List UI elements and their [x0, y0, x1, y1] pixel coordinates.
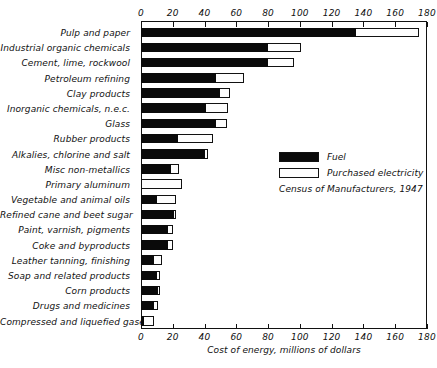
- bar-segment-fuel: [141, 119, 216, 129]
- category-label: Vegetable and animal oils: [0, 193, 136, 208]
- category-label: Misc non-metallics: [0, 163, 136, 178]
- bar-row: [141, 26, 427, 41]
- bar-segment-fuel: [141, 316, 144, 326]
- bar-row: [141, 208, 427, 223]
- bar-row: [141, 269, 427, 284]
- category-label: Corn products: [0, 284, 136, 299]
- x-tick-label-top: 100: [291, 8, 309, 18]
- x-tick-label-bottom: 80: [262, 332, 274, 342]
- x-tick-label-bottom: 40: [199, 332, 211, 342]
- category-label: Alkalies, chlorine and salt: [0, 148, 136, 163]
- x-tick-label-bottom: 60: [230, 332, 242, 342]
- bar-segment-fuel: [141, 164, 171, 174]
- white-swatch-icon: [279, 168, 319, 178]
- legend-label-purchased-electricity: Purchased electricity: [327, 167, 423, 179]
- category-label: Primary aluminum: [0, 178, 136, 193]
- bar-segment-fuel: [141, 240, 168, 250]
- x-tick-label-top: 160: [386, 8, 404, 18]
- legend-label-fuel: Fuel: [327, 151, 346, 163]
- x-tick-label-top: 20: [167, 8, 179, 18]
- x-tick-top: [427, 22, 428, 27]
- x-tick-label-bottom: 20: [167, 332, 179, 342]
- bar-row: [141, 117, 427, 132]
- x-tick-label-bottom: 180: [418, 332, 436, 342]
- bar-row: [141, 87, 427, 102]
- bar-segment-fuel: [141, 88, 220, 98]
- bar-row: [141, 284, 427, 299]
- bar-row: [141, 254, 427, 269]
- x-tick-label-bottom: 140: [355, 332, 373, 342]
- bar-row: [141, 299, 427, 314]
- bar-segment-fuel: [141, 134, 178, 144]
- x-tick-label-top: 0: [138, 8, 144, 18]
- x-tick-bottom: [427, 324, 428, 329]
- category-label: Inorganic chemicals, n.e.c.: [0, 102, 136, 117]
- legend-entry-purchased-electricity: Purchased electricity: [279, 167, 434, 180]
- horizontal-stacked-bar-chart: 0020204040606080801001001201201401401601…: [0, 0, 437, 368]
- bar-segment-fuel: [141, 286, 158, 296]
- bar-segment-fuel: [141, 271, 157, 281]
- category-label: Coke and byproducts: [0, 239, 136, 254]
- bar-row: [141, 72, 427, 87]
- chart-legend: Fuel Purchased electricity Census of Man…: [279, 151, 434, 183]
- bar-segment-purchased-electricity: [141, 179, 182, 189]
- category-label: Paint, varnish, pigments: [0, 223, 136, 238]
- category-label: Leather tanning, finishing: [0, 254, 136, 269]
- legend-entry-fuel: Fuel: [279, 151, 434, 164]
- bar-row: [141, 102, 427, 117]
- x-tick-label-top: 180: [418, 8, 436, 18]
- legend-source-note: Census of Manufacturers, 1947: [279, 184, 423, 194]
- category-label: Petroleum refining: [0, 72, 136, 87]
- category-label: Glass: [0, 117, 136, 132]
- bar-segment-fuel: [141, 103, 206, 113]
- x-tick-label-bottom: 0: [138, 332, 144, 342]
- category-label: Pulp and paper: [0, 26, 136, 41]
- bar-segment-fuel: [141, 255, 154, 265]
- x-tick-label-top: 120: [323, 8, 341, 18]
- category-label: Industrial organic chemicals: [0, 41, 136, 56]
- x-tick-label-top: 140: [355, 8, 373, 18]
- x-axis-title: Cost of energy, millions of dollars: [141, 345, 427, 355]
- bar-row: [141, 56, 427, 71]
- category-label: Clay products: [0, 87, 136, 102]
- bar-segment-fuel: [141, 73, 216, 83]
- bar-row: [141, 315, 427, 330]
- category-label: Soap and related products: [0, 269, 136, 284]
- bar-row: [141, 223, 427, 238]
- x-tick-label-top: 80: [262, 8, 274, 18]
- black-swatch-icon: [279, 152, 319, 162]
- bar-row: [141, 132, 427, 147]
- bar-segment-fuel: [141, 28, 356, 38]
- bar-row: [141, 41, 427, 56]
- x-tick-label-top: 60: [230, 8, 242, 18]
- category-label: Refined cane and beet sugar: [0, 208, 136, 223]
- bar-segment-fuel: [141, 225, 168, 235]
- x-tick-label-bottom: 120: [323, 332, 341, 342]
- category-label: Drugs and medicines: [0, 299, 136, 314]
- bar-segment-fuel: [141, 43, 268, 53]
- category-label: Compressed and liquefied gases: [0, 315, 136, 330]
- x-tick-label-bottom: 160: [386, 332, 404, 342]
- bar-segment-fuel: [141, 301, 154, 311]
- category-label: Cement, lime, rockwool: [0, 56, 136, 71]
- category-label: Rubber products: [0, 132, 136, 147]
- bar-row: [141, 193, 427, 208]
- bar-segment-fuel: [141, 58, 268, 68]
- bar-row: [141, 239, 427, 254]
- bar-segment-fuel: [141, 210, 174, 220]
- bar-segment-fuel: [141, 149, 205, 159]
- category-label-column: Pulp and paperIndustrial organic chemica…: [0, 26, 136, 330]
- x-tick-label-bottom: 100: [291, 332, 309, 342]
- x-tick-label-top: 40: [199, 8, 211, 18]
- bar-segment-fuel: [141, 195, 157, 205]
